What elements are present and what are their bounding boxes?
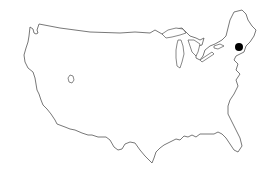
us-outline-map bbox=[0, 0, 272, 183]
us-mainland-outline bbox=[24, 10, 256, 163]
map-canvas bbox=[0, 0, 272, 183]
great-salt-lake bbox=[68, 75, 74, 83]
location-marker-dot bbox=[235, 43, 243, 51]
